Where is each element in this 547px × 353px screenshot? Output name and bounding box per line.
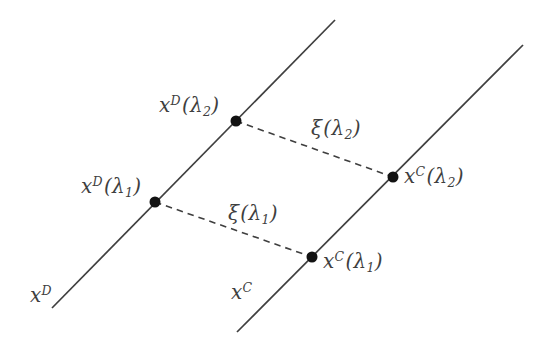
point-xd-lambda2	[231, 116, 242, 127]
label-close: )	[270, 201, 278, 225]
label-open: (λ	[240, 201, 261, 225]
label-close: )	[375, 249, 383, 273]
line-xc	[237, 45, 523, 332]
label-point-xd-lambda1: xD(λ1)	[81, 175, 141, 197]
label-line-xd: xD	[30, 284, 53, 306]
label-open: (λ	[345, 249, 366, 273]
label-subscript: 1	[367, 260, 375, 275]
label-open: (λ	[426, 164, 447, 188]
label-superscript: C	[416, 164, 426, 179]
point-xd-lambda1	[150, 197, 161, 208]
label-subscript: 1	[261, 212, 269, 227]
label-close: )	[456, 164, 464, 188]
label-line-xc: xC	[231, 281, 253, 303]
label-superscript: C	[243, 280, 253, 295]
label-point-xc-lambda2: xC(λ2)	[404, 165, 464, 187]
label-open: (λ	[104, 174, 125, 198]
point-xc-lambda2	[388, 172, 399, 183]
label-point-xc-lambda1: xC(λ1)	[323, 250, 383, 272]
line-xd	[52, 20, 335, 308]
label-superscript: D	[42, 283, 52, 298]
label-subscript: 2	[448, 175, 456, 190]
point-xc-lambda1	[307, 252, 318, 263]
label-close: )	[211, 93, 219, 117]
label-base: x	[159, 93, 171, 117]
label-open: (λ	[323, 116, 344, 140]
label-base: x	[30, 283, 42, 307]
label-open: (λ	[182, 93, 203, 117]
label-xi-lambda2: ξ(λ2)	[311, 117, 361, 139]
label-close: )	[353, 116, 361, 140]
label-xi-lambda1: ξ(λ1)	[228, 202, 278, 224]
label-base: x	[404, 164, 416, 188]
label-base: x	[231, 280, 243, 304]
label-close: )	[133, 174, 141, 198]
label-point-xd-lambda2: xD(λ2)	[159, 94, 219, 116]
label-base: ξ	[311, 116, 322, 140]
label-subscript: 2	[344, 127, 352, 142]
label-base: x	[323, 249, 335, 273]
label-superscript: D	[93, 174, 103, 189]
label-base: x	[81, 174, 93, 198]
label-superscript: C	[335, 249, 345, 264]
label-base: ξ	[228, 201, 239, 225]
label-superscript: D	[171, 93, 181, 108]
diagram-canvas: xD(λ2) xD(λ1) xC(λ2) xC(λ1) ξ(λ2) ξ(λ1) …	[0, 0, 547, 353]
